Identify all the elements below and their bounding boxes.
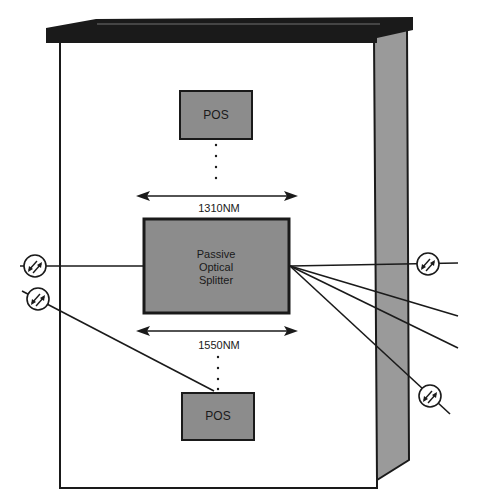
wavelength-1550-label: 1550NM [198,339,240,351]
optical-connector-icon-left-2 [27,288,49,310]
splitter-label-line3: Splitter [199,274,234,286]
pos-bottom-label: POS [205,409,230,423]
pos-box-bottom: POS [182,393,254,440]
pon-diagram: POS 1310NM Passive Optical Splitter 1550… [0,0,478,498]
splitter-label-line1: Passive [197,248,236,260]
splitter-label-line2: Optical [199,261,233,273]
wavelength-1310-label: 1310NM [198,202,240,214]
pos-box-top: POS [180,91,252,139]
cabinet-side-panel [374,28,409,480]
optical-connector-icon-left-1 [24,255,46,277]
optical-connector-icon-right-2 [419,385,441,407]
cabinet-lid [46,17,413,43]
passive-optical-splitter: Passive Optical Splitter [144,219,289,313]
pos-top-label: POS [203,108,228,122]
optical-connector-icon-right-1 [417,253,439,275]
